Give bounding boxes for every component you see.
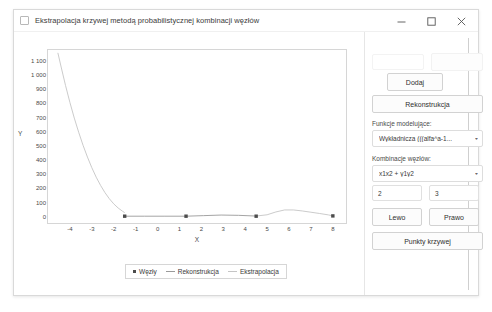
x-tick-label: 5 [257, 226, 277, 232]
kombinacje-wezlow-select[interactable]: x1x2 + y1y2 ▾ [372, 165, 483, 182]
legend-label: Ekstrapolacja [240, 268, 279, 275]
data-point-marker [184, 214, 187, 217]
close-button[interactable] [446, 10, 476, 32]
y-tick-label: 200 [16, 185, 46, 192]
y-tick-label: 400 [16, 157, 46, 164]
maximize-button[interactable] [416, 10, 446, 32]
window-body: Y 1 1001 0009008007006005004003002001000… [14, 32, 478, 295]
line-marker-icon [228, 271, 237, 272]
maximize-icon [427, 17, 436, 26]
data-point-marker [254, 214, 257, 217]
data-point-marker [331, 214, 334, 217]
application-window: Ekstrapolacja krzywej metodą probabilist… [13, 9, 479, 296]
window-title: Ekstrapolacja krzywej metodą probabilist… [35, 16, 259, 25]
x-axis-title: X [47, 236, 347, 243]
prawo-button[interactable]: Prawo [429, 208, 479, 226]
y-tick-label: 700 [16, 115, 46, 122]
chevron-down-icon: ▾ [475, 171, 478, 175]
x-tick-label: 3 [213, 226, 233, 232]
minimize-button[interactable] [386, 10, 416, 32]
x-axis-ticks: -4-3-2-1012345678 [47, 226, 347, 236]
value-input-disabled[interactable] [372, 54, 424, 70]
select-value: x1x2 + y1y2 [379, 170, 414, 177]
chart-panel: Y 1 1001 0009008007006005004003002001000… [14, 32, 364, 295]
chart-legend: Węzły Rekonstrukcja Ekstrapolacja [125, 264, 287, 279]
y-tick-label: 800 [16, 100, 46, 107]
plot-svg [48, 50, 346, 223]
x-tick-label: 2 [191, 226, 211, 232]
legend-label: Węzły [139, 268, 157, 275]
legend-item-wezly: Węzły [133, 268, 157, 275]
close-icon [457, 17, 466, 26]
y-tick-label: 1 000 [16, 72, 46, 79]
x-tick-label: 0 [148, 226, 168, 232]
series-rekonstrukcja [125, 215, 256, 216]
title-bar: Ekstrapolacja krzywej metodą probabilist… [14, 10, 478, 32]
y-tick-label: 100 [16, 200, 46, 207]
y-tick-label: 1 100 [16, 58, 46, 65]
y-tick-label: 0 [16, 214, 46, 221]
panel-divider [468, 38, 469, 290]
y-tick-label: 600 [16, 129, 46, 136]
param-a-input[interactable]: 2 [372, 185, 422, 201]
minimize-icon [397, 17, 406, 26]
x-tick-label: 4 [235, 226, 255, 232]
y-tick-label: 900 [16, 86, 46, 93]
usun-button-disabled[interactable] [431, 53, 483, 71]
series-line [58, 53, 125, 213]
funkcje-modelujace-label: Funkcje modelujące: [372, 120, 432, 127]
x-tick-label: -4 [60, 226, 80, 232]
x-tick-label: -1 [126, 226, 146, 232]
kombinacje-wezlow-label: Kombinacje węzłów: [372, 155, 431, 162]
app-icon [20, 16, 29, 25]
data-point-marker [123, 214, 126, 217]
control-panel: Dodaj Rekonstrukcja Funkcje modelujące: … [364, 32, 478, 295]
series-ekstrapolacja [58, 53, 333, 216]
y-tick-label: 500 [16, 143, 46, 150]
select-value: Wykładnicza (((alfa^a-1... [379, 135, 452, 142]
legend-item-rekonstrukcja: Rekonstrukcja [166, 268, 219, 275]
x-tick-label: -3 [82, 226, 102, 232]
plot-area [47, 49, 347, 224]
dodaj-button[interactable]: Dodaj [387, 73, 443, 91]
x-tick-label: -2 [104, 226, 124, 232]
chevron-down-icon: ▾ [475, 136, 478, 140]
line-marker-icon [166, 271, 175, 272]
lewo-button[interactable]: Lewo [372, 208, 422, 226]
x-tick-label: 8 [323, 226, 343, 232]
funkcje-modelujace-select[interactable]: Wykładnicza (((alfa^a-1... ▾ [372, 130, 483, 147]
param-b-input[interactable]: 3 [429, 185, 479, 201]
x-tick-label: 6 [279, 226, 299, 232]
y-tick-label: 300 [16, 171, 46, 178]
y-axis-ticks: 1 1001 0009008007006005004003002001000 [14, 49, 46, 224]
legend-item-ekstrapolacja: Ekstrapolacja [228, 268, 279, 275]
punkty-krzywej-button[interactable]: Punkty krzywej [372, 232, 483, 250]
square-marker-icon [133, 270, 136, 273]
series-line [125, 215, 256, 216]
x-tick-label: 7 [301, 226, 321, 232]
rekonstrukcja-button[interactable]: Rekonstrukcja [372, 95, 483, 113]
x-tick-label: 1 [169, 226, 189, 232]
legend-label: Rekonstrukcja [178, 268, 219, 275]
series-line [256, 210, 333, 216]
